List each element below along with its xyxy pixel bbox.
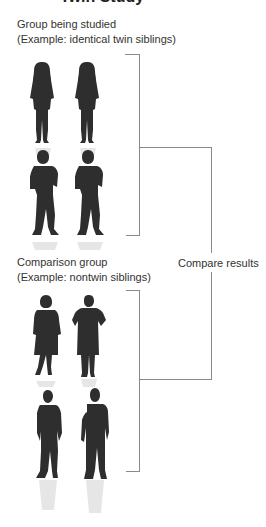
twin-woman-silhouette-icon <box>75 62 101 157</box>
sibling-man-silhouette-icon <box>33 390 63 510</box>
comparison-group-heading: Comparison group <box>17 255 108 269</box>
compare-results-label: Compare results <box>178 256 259 270</box>
bracket-bottom-cap <box>126 290 140 291</box>
connector-bottom-vertical <box>211 272 212 380</box>
bracket-bottom-foot <box>126 471 140 472</box>
group-studied-example: (Example: identical twin siblings) <box>17 32 176 46</box>
twin-man-silhouette-icon <box>73 150 107 250</box>
connector-bottom-horizontal <box>139 379 212 380</box>
twin-woman-silhouette-icon <box>30 62 56 157</box>
diagram-title: Twin Study <box>60 0 144 6</box>
comparison-group-example: (Example: nontwin siblings) <box>17 270 151 284</box>
sibling-woman-silhouette-icon <box>30 295 62 387</box>
bracket-top-cap <box>125 54 140 55</box>
bracket-bottom-vertical <box>139 290 140 472</box>
sibling-woman-silhouette-icon <box>72 295 106 387</box>
bracket-top-foot <box>126 235 140 236</box>
bracket-top-vertical <box>139 54 140 236</box>
connector-top-horizontal <box>139 147 212 148</box>
connector-top-vertical <box>211 147 212 253</box>
group-studied-heading: Group being studied <box>17 17 116 31</box>
twin-man-silhouette-icon <box>28 150 62 250</box>
sibling-man-silhouette-icon <box>80 388 110 513</box>
